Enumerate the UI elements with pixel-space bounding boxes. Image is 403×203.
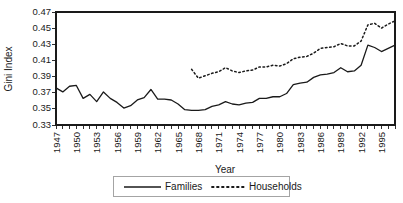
x-tick-label: 1995 [376,132,387,153]
gini-index-line-chart: Gini Index 0.330.350.370.390.410.430.450… [0,0,403,203]
legend: Families Households [114,177,302,197]
plot-border [56,12,395,125]
y-tick-label: 0.43 [33,38,52,49]
y-tick-label: 0.33 [33,119,52,130]
x-tick-label: 1983 [295,132,306,153]
chart-canvas: Gini Index 0.330.350.370.390.410.430.450… [0,0,403,203]
y-tick-label: 0.35 [33,102,52,113]
x-tick-label: 1974 [234,132,245,153]
y-tick-label: 0.47 [33,6,52,17]
x-axis-tick-labels: 1947195019531956195919621965196819711974… [51,132,387,153]
x-tick-label: 1968 [193,132,204,153]
x-tick-label: 1959 [132,132,143,153]
y-axis-tick-labels: 0.330.350.370.390.410.430.450.47 [33,6,52,130]
x-tick-label: 1989 [335,132,346,153]
x-tick-label: 1971 [213,132,224,153]
y-tick-label: 0.37 [33,86,52,97]
y-tick-label: 0.41 [33,54,52,65]
x-tick-label: 1953 [91,132,102,153]
x-tick-label: 1992 [356,132,367,153]
legend-label-families: Families [165,181,202,192]
y-tick-label: 0.39 [33,70,52,81]
series-line-families [56,45,395,110]
y-axis-title-group: Gini Index [3,46,14,91]
x-tick-label: 1962 [152,132,163,153]
legend-label-households: Households [249,181,302,192]
series-line-households [192,21,395,78]
x-tick-label: 1950 [71,132,82,153]
y-axis-ticks [52,12,56,125]
x-tick-label: 1965 [173,132,184,153]
plot-area-frame [56,12,395,125]
y-tick-label: 0.45 [33,22,52,33]
x-tick-label: 1977 [254,132,265,153]
x-axis-title: Year [215,164,236,175]
x-tick-label: 1956 [112,132,123,153]
x-axis-ticks [56,125,395,129]
y-axis-title: Gini Index [3,46,14,91]
x-tick-label: 1947 [51,132,62,153]
x-tick-label: 1980 [274,132,285,153]
x-tick-label: 1986 [315,132,326,153]
